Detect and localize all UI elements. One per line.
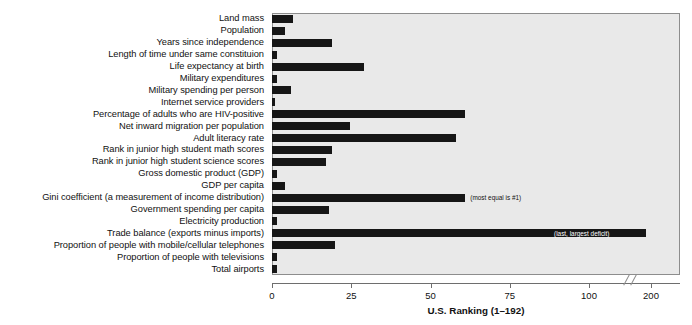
category-label: Years since independence xyxy=(156,37,264,48)
category-label: GDP per capita xyxy=(201,180,264,191)
category-label-column: Land massPopulationYears since independe… xyxy=(0,13,268,275)
category-label: Percentage of adults who are HIV-positiv… xyxy=(93,109,264,120)
bar xyxy=(272,110,465,118)
category-label: Gross domestic product (GDP) xyxy=(138,168,264,179)
x-tick-label: 0 xyxy=(269,290,274,301)
category-label: Net inward migration per population xyxy=(119,121,264,132)
category-label: Rank in junior high student math scores xyxy=(103,144,264,155)
category-label: Rank in junior high student science scor… xyxy=(92,156,264,167)
x-tick-mark xyxy=(272,283,273,288)
bar xyxy=(272,265,277,273)
category-label: Military spending per person xyxy=(149,85,264,96)
bar xyxy=(272,134,456,142)
bar-annotation: (last, largest deficit) xyxy=(554,229,609,238)
bar xyxy=(272,15,293,23)
x-tick-mark xyxy=(510,283,511,288)
x-tick-mark xyxy=(431,283,432,288)
bar xyxy=(272,206,329,214)
x-tick-mark xyxy=(651,283,652,288)
category-label: Life expectancy at birth xyxy=(170,61,264,72)
x-tick-mark xyxy=(351,283,352,288)
bar xyxy=(272,39,332,47)
x-axis-title: U.S. Ranking (1–192) xyxy=(272,305,680,316)
category-label: Government spending per capita xyxy=(131,204,264,215)
bar xyxy=(272,51,277,59)
bar xyxy=(272,241,335,249)
category-label: Proportion of people with mobile/cellula… xyxy=(54,240,264,251)
x-axis-line xyxy=(272,283,680,284)
x-tick-label: 50 xyxy=(425,290,436,301)
bar xyxy=(272,170,277,178)
x-tick-label: 75 xyxy=(504,290,515,301)
category-label: Length of time under same constituion xyxy=(108,49,264,60)
bar xyxy=(272,194,465,202)
bar xyxy=(272,146,332,154)
bar xyxy=(272,122,350,130)
category-label: Proportion of people with televisions xyxy=(117,252,264,263)
category-label: Total airports xyxy=(211,264,264,275)
bar-annotation: (most equal is #1) xyxy=(470,193,521,202)
category-label: Trade balance (exports minus imports) xyxy=(107,228,264,239)
bar xyxy=(272,86,291,94)
bar xyxy=(272,75,277,83)
bars-layer: (most equal is #1)(last, largest deficit… xyxy=(272,13,680,275)
category-label: Land mass xyxy=(219,13,264,24)
axis-break-icon xyxy=(622,274,644,286)
category-label: Gini coefficient (a measurement of incom… xyxy=(42,192,264,203)
category-label: Electricity production xyxy=(179,216,264,227)
bar xyxy=(272,217,277,225)
chart-container: Land massPopulationYears since independe… xyxy=(0,0,692,325)
x-tick-label: 100 xyxy=(581,290,597,301)
bar xyxy=(272,253,277,261)
bar xyxy=(272,98,275,106)
category-label: Internet service providers xyxy=(161,97,264,108)
category-label: Adult literacy rate xyxy=(193,133,264,144)
bar xyxy=(272,27,285,35)
bar xyxy=(272,63,364,71)
category-label: Population xyxy=(221,25,264,36)
x-tick-label: 25 xyxy=(346,290,357,301)
x-tick-label: 200 xyxy=(643,290,659,301)
x-tick-mark xyxy=(589,283,590,288)
bar xyxy=(272,182,285,190)
category-label: Military expenditures xyxy=(180,73,264,84)
bar xyxy=(272,158,326,166)
